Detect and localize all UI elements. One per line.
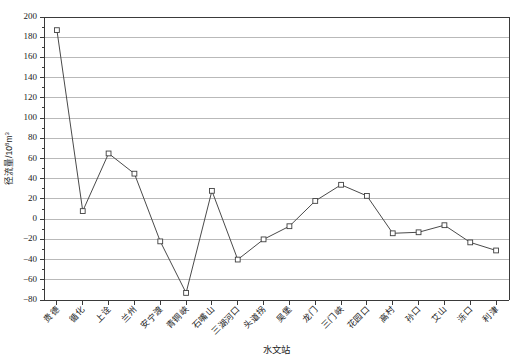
- chart-canvas: 200180160140120100806040200−20−40−60−80贵…: [0, 0, 520, 363]
- x-axis-tick-label: 贵德: [41, 304, 62, 325]
- x-axis-tick-label: 三门峡: [319, 304, 346, 331]
- x-axis-tick-label: 高村: [377, 304, 398, 325]
- y-axis-tick-label: 20: [28, 193, 38, 203]
- data-point-marker: [365, 194, 370, 199]
- x-axis-tick-label: 青铜峡: [164, 304, 191, 331]
- data-point-marker: [80, 209, 85, 214]
- y-axis-tick-label: 60: [28, 153, 38, 163]
- y-axis-tick-label: −20: [23, 233, 38, 243]
- y-axis-tick-label: 200: [24, 11, 38, 21]
- x-axis-tick-label: 吴堡: [274, 304, 294, 324]
- x-axis-tick-label: 循化: [67, 304, 88, 325]
- x-axis-tick-label: 头道拐: [241, 304, 268, 331]
- y-axis-tick-label: 0: [33, 213, 38, 223]
- data-point-marker: [416, 230, 421, 235]
- data-point-marker: [494, 248, 499, 253]
- data-point-marker: [313, 199, 318, 204]
- data-point-marker: [339, 182, 344, 187]
- data-point-marker: [261, 237, 266, 242]
- data-point-marker: [106, 151, 111, 156]
- y-axis-tick-label: 40: [28, 173, 38, 183]
- data-point-marker: [132, 171, 137, 176]
- x-axis-tick-label: 三湖河口: [209, 304, 242, 337]
- data-point-marker: [390, 231, 395, 236]
- x-axis-tick-label: 艾山: [429, 304, 449, 324]
- x-axis-tick-label: 泺口: [454, 304, 475, 325]
- x-axis-tick-label: 龙门: [299, 304, 320, 325]
- y-axis-tick-label: −80: [23, 294, 38, 304]
- x-axis-tick-label: 孙口: [402, 304, 423, 325]
- y-axis-title: 径流量/108m3: [3, 131, 14, 184]
- x-axis-tick-label: 兰州: [118, 304, 139, 325]
- y-axis-tick-label: 100: [24, 112, 38, 122]
- y-axis-tick-label: 120: [24, 92, 38, 102]
- y-axis-tick-label: −40: [23, 254, 38, 264]
- data-point-marker: [210, 188, 215, 193]
- data-point-marker: [55, 28, 60, 33]
- data-point-marker: [184, 291, 189, 296]
- x-axis-tick-label: 安宁渡: [138, 304, 165, 331]
- data-point-marker: [158, 239, 163, 244]
- data-point-marker: [442, 223, 447, 228]
- runoff-line-chart: 200180160140120100806040200−20−40−60−80贵…: [0, 0, 520, 363]
- y-axis-tick-label: −60: [23, 274, 38, 284]
- y-axis-tick-label: 80: [28, 132, 38, 142]
- data-point-marker: [468, 240, 473, 245]
- y-axis-tick-label: 160: [24, 51, 38, 61]
- data-point-marker: [235, 257, 240, 262]
- x-axis-title: 水文站: [263, 344, 290, 355]
- x-axis-tick-label: 花园口: [344, 304, 371, 331]
- x-axis-tick-label: 上诠: [92, 304, 113, 325]
- y-axis-tick-label: 140: [24, 72, 38, 82]
- y-axis-tick-label: 180: [24, 31, 38, 41]
- data-point-marker: [287, 224, 292, 229]
- x-axis-tick-label: 利津: [480, 304, 501, 325]
